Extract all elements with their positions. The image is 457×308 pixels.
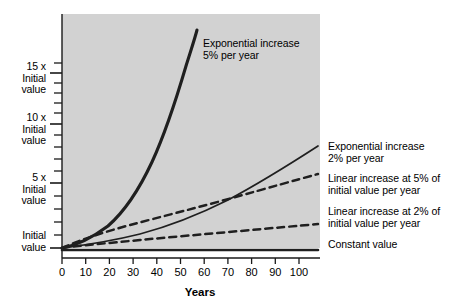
series-linear-5-percent xyxy=(62,174,318,248)
x-axis-ticks xyxy=(62,258,299,264)
annotation-exponential-5-percent: Exponential increase 5% per year xyxy=(203,37,333,61)
legend-label-linear-5-percent: Linear increase at 5% of initial value p… xyxy=(328,172,456,196)
y-tick-label-initial: Initial value xyxy=(0,230,46,253)
legend-label-linear-2-percent: Linear increase at 2% of initial value p… xyxy=(328,205,456,229)
chart-figure: Initial value 5 x Initial value 10 x Ini… xyxy=(0,0,457,308)
x-tick-label-10: 10 xyxy=(76,266,96,278)
series-exponential-5-percent xyxy=(62,30,197,248)
x-tick-label-40: 40 xyxy=(147,266,167,278)
x-tick-label-30: 30 xyxy=(123,266,143,278)
series-linear-2-percent xyxy=(62,224,318,248)
x-tick-label-100: 100 xyxy=(288,266,310,278)
x-tick-label-80: 80 xyxy=(242,266,262,278)
legend-label-constant-value: Constant value xyxy=(328,238,456,250)
x-tick-label-0: 0 xyxy=(52,266,72,278)
x-tick-label-60: 60 xyxy=(194,266,214,278)
y-tick-label-5x: 5 x Initial value xyxy=(0,172,46,207)
y-tick-label-15x: 15 x Initial value xyxy=(0,61,46,96)
y-tick-label-10x: 10 x Initial value xyxy=(0,112,46,147)
x-tick-label-50: 50 xyxy=(171,266,191,278)
x-tick-label-20: 20 xyxy=(99,266,119,278)
x-tick-label-70: 70 xyxy=(218,266,238,278)
x-tick-label-90: 90 xyxy=(265,266,285,278)
legend-label-exponential-2-percent: Exponential increase 2% per year xyxy=(328,140,456,164)
y-axis-ticks xyxy=(50,63,62,248)
x-axis-title: Years xyxy=(150,286,250,298)
